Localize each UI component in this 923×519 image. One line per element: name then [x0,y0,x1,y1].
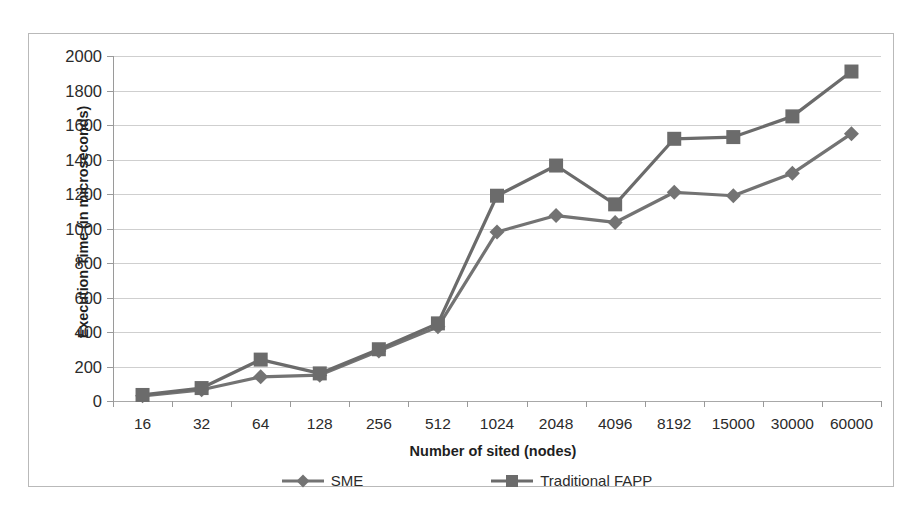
square-marker [254,353,268,367]
x-axis-tick [586,401,587,407]
square-marker [490,189,504,203]
x-axis-tick-label: 256 [366,415,392,433]
y-axis-tick-label: 0 [93,392,102,411]
square-marker-icon [489,473,535,489]
x-axis-tick-label: 60000 [830,415,873,433]
series-plot [113,56,881,401]
diamond-marker [726,188,741,203]
x-axis-tick [763,401,764,407]
plot-area: 0200400600800100012001400160018002000 16… [113,56,881,401]
y-axis-tick-label: 800 [74,254,102,273]
y-axis-tick-label: 1600 [65,116,102,135]
square-marker [844,65,858,79]
y-axis-tick-label: 400 [74,323,102,342]
x-axis-tick-label: 32 [193,415,210,433]
x-axis-tick [822,401,823,407]
chart-figure-frame: Execution Time (in microseconds) 0200400… [28,33,894,487]
series-sme [135,126,859,403]
diamond-marker [549,208,564,223]
x-axis-tick-label: 512 [425,415,451,433]
y-axis-tick-label: 1200 [65,185,102,204]
x-axis-tick [645,401,646,407]
x-axis-tick-label: 15000 [712,415,755,433]
legend-label-sme: SME [331,472,364,489]
square-marker [667,132,681,146]
diamond-marker [253,369,268,384]
square-marker [726,130,740,144]
x-axis-tick-label: 4096 [598,415,632,433]
square-marker [136,388,150,402]
y-axis-tick-label: 1800 [65,81,102,100]
x-axis-tick [290,401,291,407]
legend-item-sme[interactable]: SME [280,472,364,489]
x-axis-tick [408,401,409,407]
x-axis-tick-label: 1024 [480,415,514,433]
x-axis-tick-label: 128 [307,415,333,433]
series-line [143,134,852,396]
diamond-marker [608,215,623,230]
chart-legend: SME Traditional FAPP [29,472,893,489]
x-axis-tick-label: 30000 [771,415,814,433]
x-axis-tick-label: 2048 [539,415,573,433]
square-marker [372,342,386,356]
y-axis-tick-label: 1400 [65,150,102,169]
x-axis-tick [881,401,882,407]
square-marker [431,316,445,330]
diamond-marker [667,185,682,200]
square-marker [608,197,622,211]
y-axis-tick-label: 600 [74,288,102,307]
x-axis-tick-label: 64 [252,415,269,433]
diamond-marker-icon [280,473,326,489]
y-axis-tick-label: 200 [74,357,102,376]
x-axis-tick [349,401,350,407]
x-axis-tick-label: 8192 [657,415,691,433]
x-axis-tick-label: 16 [134,415,151,433]
diamond-marker [490,224,505,239]
x-axis-title: Number of sited (nodes) [29,443,893,459]
square-marker [195,381,209,395]
x-axis-tick [113,401,114,407]
gridline [113,401,881,402]
x-axis-tick [527,401,528,407]
square-marker [549,159,563,173]
y-axis-tick-label: 1000 [65,219,102,238]
square-marker [785,109,799,123]
legend-label-traditional-fapp: Traditional FAPP [540,472,652,489]
x-axis-tick [231,401,232,407]
y-axis-tick-label: 2000 [65,47,102,66]
x-axis-tick [467,401,468,407]
square-marker [313,366,327,380]
legend-item-traditional-fapp[interactable]: Traditional FAPP [489,472,652,489]
x-axis-tick [704,401,705,407]
x-axis-tick [172,401,173,407]
